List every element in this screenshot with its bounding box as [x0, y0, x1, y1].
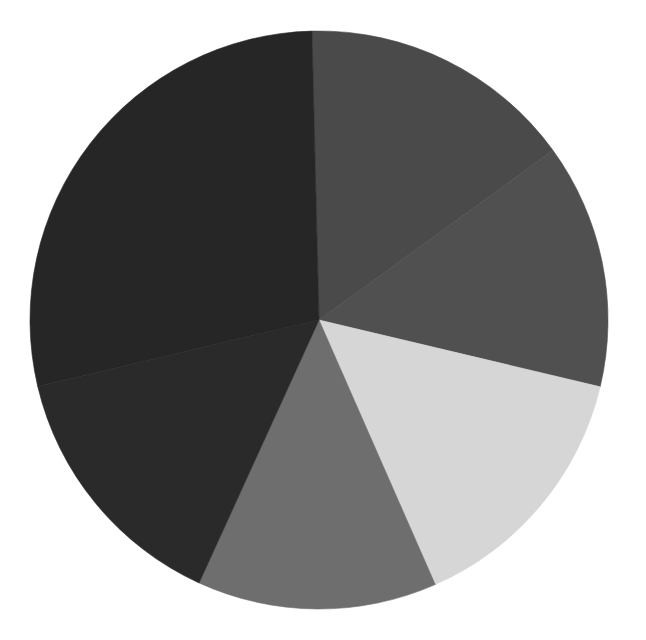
pie-slices: [30, 31, 608, 609]
pie-chart: [0, 0, 646, 640]
